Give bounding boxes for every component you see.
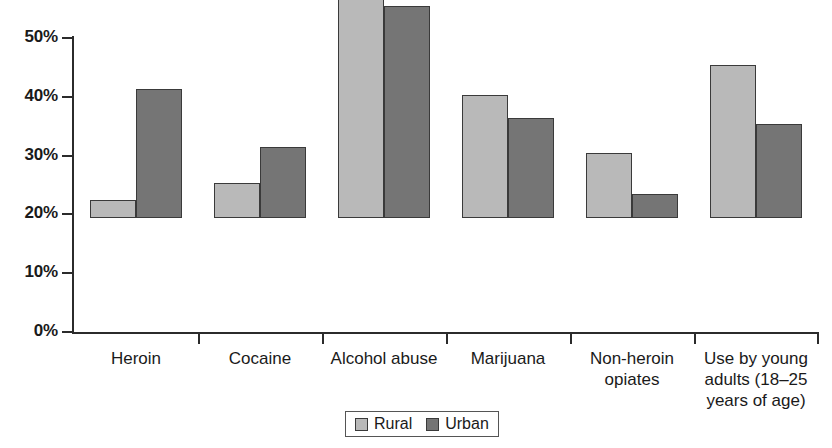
x-axis-separator-tick (198, 334, 200, 344)
x-axis-category-label-2: Alcohol abuse (322, 348, 446, 369)
x-axis-category-label-line: adults (18–25 (694, 369, 818, 390)
bar-rural-5 (710, 65, 756, 218)
plot-area (0, 0, 832, 334)
x-axis-category-label-line: years of age) (694, 390, 818, 411)
bar-urban-4 (632, 194, 678, 218)
bar-rural-0 (90, 200, 136, 218)
x-axis-category-label-line: Marijuana (446, 348, 570, 369)
bar-urban-5 (756, 124, 802, 218)
legend-entry-urban[interactable]: Urban (426, 415, 489, 433)
bar-urban-1 (260, 147, 306, 218)
legend-entry-rural[interactable]: Rural (355, 415, 412, 433)
x-axis-category-label-line: opiates (570, 369, 694, 390)
x-axis-category-label-line: Alcohol abuse (322, 348, 446, 369)
bar-urban-3 (508, 118, 554, 218)
x-axis-category-label-line: Heroin (74, 348, 198, 369)
bar-chart: 0%10%20%30%40%50% HeroinCocaineAlcohol a… (0, 0, 832, 448)
legend-label: Rural (374, 415, 412, 433)
x-axis-separator-tick (446, 334, 448, 344)
urban-swatch-icon (426, 418, 439, 431)
x-axis-category-label-line: Cocaine (198, 348, 322, 369)
x-axis-category-label-4: Non-heroinopiates (570, 348, 694, 390)
bar-urban-2 (384, 6, 430, 218)
x-axis-category-label-3: Marijuana (446, 348, 570, 369)
x-axis-category-label-0: Heroin (74, 348, 198, 369)
x-axis-category-label-line: Use by young (694, 348, 818, 369)
bar-rural-2 (338, 0, 384, 218)
bar-rural-1 (214, 183, 260, 218)
x-axis-end-tick (817, 334, 819, 344)
bar-urban-0 (136, 89, 182, 218)
chart-legend: RuralUrban (345, 411, 499, 437)
x-axis-category-label-line: Non-heroin (570, 348, 694, 369)
x-axis-category-label-1: Cocaine (198, 348, 322, 369)
legend-label: Urban (445, 415, 489, 433)
bar-rural-3 (462, 95, 508, 218)
rural-swatch-icon (355, 418, 368, 431)
x-axis-category-label-5: Use by youngadults (18–25years of age) (694, 348, 818, 411)
x-axis-separator-tick (570, 334, 572, 344)
x-axis-separator-tick (322, 334, 324, 344)
bar-rural-4 (586, 153, 632, 218)
x-axis-separator-tick (694, 334, 696, 344)
